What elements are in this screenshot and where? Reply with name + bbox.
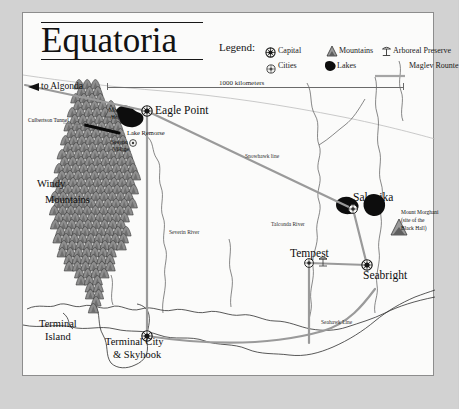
label-talconda-river: Talconda River	[271, 221, 305, 227]
label-mount-hope-line2: Hope	[111, 114, 123, 120]
map-frame: Equatoria Legend: Capital Mountains Arbo…	[22, 12, 434, 376]
label-terminal-island-line1: Terminal	[39, 318, 77, 329]
label-windy-mountains-line2: Mountains	[45, 194, 90, 205]
talconda-tributary-path	[319, 99, 365, 145]
label-terminal-island-line2: Island	[45, 331, 71, 342]
label-severin-river: Severin River	[169, 229, 199, 235]
legend-item-mountains: Mountains	[339, 46, 373, 55]
legend-item-cities: Cities	[278, 61, 297, 70]
algonda-arrow-icon	[28, 83, 39, 91]
label-seabright: Seabright	[363, 269, 407, 281]
title-rule-bottom	[41, 59, 203, 60]
settlement-markers-group	[130, 106, 373, 341]
maglev-salonika-to-seabright	[353, 209, 367, 265]
legend-item-maglev: Maglev Rounte	[409, 61, 459, 70]
marker-tempest-city	[305, 259, 314, 268]
label-salonika: Salonika	[353, 191, 393, 203]
south-coast-line	[23, 290, 435, 356]
legend-item-lakes: Lakes	[337, 61, 356, 70]
label-severin-village-line2: Village	[113, 146, 129, 152]
city-marker-icon	[266, 60, 276, 78]
label-lake-remorse: Lake Remorse	[127, 129, 165, 136]
label-terminal-city-line2: & Skyhook	[113, 349, 161, 360]
label-seahawk-line: Seahawk Line	[321, 319, 352, 325]
mid-river-path	[229, 239, 232, 307]
scale-cap-right	[403, 83, 404, 90]
label-mount-morghani-line3: Black Hall)	[401, 225, 427, 231]
label-eagle-point: Eagle Point	[155, 104, 208, 116]
scale-label: 1000 kilometers	[216, 79, 267, 87]
maglev-snowhawk-line	[147, 111, 353, 209]
legend-item-arboreal-preserve: Arboreal Preserve	[393, 46, 451, 55]
severin-river-path	[145, 135, 166, 313]
label-mount-hope-line1: Mount	[109, 107, 124, 113]
scale-cap-left	[107, 83, 108, 90]
marker-severin-village-city	[130, 140, 137, 147]
label-mount-morghani-line1: Mount Morghani	[401, 209, 439, 215]
label-culbertson-tunnel: Culbertson Tunnel	[28, 117, 69, 123]
label-windy-mountains-line1: Windy	[37, 178, 65, 189]
legend-label: Legend:	[219, 41, 255, 53]
label-mount-morghani-line2: (site of the	[401, 217, 425, 223]
label-tempest: Tempest	[290, 247, 329, 259]
edge-note-algonda: to Algonda	[41, 81, 83, 91]
page-title: Equatoria	[41, 23, 177, 58]
maglev-line-icon	[375, 64, 405, 82]
marker-salonika-city	[349, 205, 358, 214]
scale-bar	[107, 87, 403, 88]
maglev-tempest-to-seabright	[309, 263, 367, 265]
west-river-path	[111, 275, 113, 305]
label-snowhawk-line: Snowhawk line	[245, 153, 279, 159]
label-terminal-city-line1: Terminal City	[105, 336, 163, 347]
marker-eagle-point-capital	[142, 106, 152, 116]
legend-item-capital: Capital	[278, 46, 301, 55]
arboreal-preserve-icon	[381, 43, 392, 61]
label-severin-village-line1: Severin	[111, 139, 128, 145]
maglev-seahawk-line	[147, 289, 375, 343]
lake-icon	[323, 58, 337, 76]
